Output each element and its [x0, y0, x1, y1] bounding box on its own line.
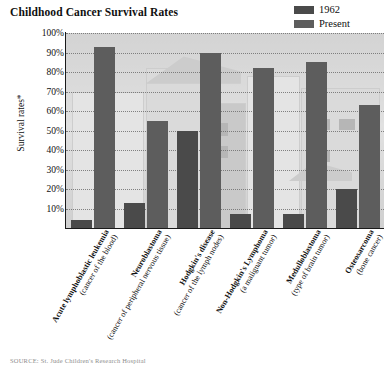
y-axis-tick-label: 100%: [42, 28, 64, 38]
bar-group: [124, 33, 168, 228]
x-axis-category-label: Osteosarcoma(bone cancer): [343, 228, 384, 280]
bar-present: [200, 53, 221, 229]
category-label-secondary: (a malignant tumor): [222, 233, 278, 320]
category-label-primary: Hodgkin's disease: [163, 228, 217, 312]
y-axis-tick-label: 60%: [47, 106, 64, 116]
bar-1962: [71, 220, 92, 228]
y-axis-tick-label: 80%: [47, 67, 64, 77]
bar-present: [94, 47, 115, 228]
y-axis-title: Survival rates*: [16, 83, 26, 163]
bar-present: [253, 68, 274, 228]
bar-present: [306, 62, 327, 228]
y-axis-tick-label: 90%: [47, 48, 64, 58]
x-axis-category-labels: Acute lymphoblastic leukemia(cancer of t…: [0, 228, 388, 348]
bar-1962: [230, 214, 251, 228]
chart-page: Childhood Cancer Survival Rates 1962 Pre…: [0, 0, 388, 366]
legend-label-1962: 1962: [319, 3, 340, 16]
bar-1962: [177, 131, 198, 229]
source-note: SOURCE: St. Jude Children's Research Hos…: [10, 357, 146, 364]
bar-1962: [336, 189, 357, 228]
plot-area: [66, 33, 384, 228]
bar-group: [71, 33, 115, 228]
legend-item-1962: 1962: [294, 3, 380, 16]
bar-present: [147, 121, 168, 228]
y-axis-tick-label: 10%: [47, 204, 64, 214]
bar-1962: [283, 214, 304, 228]
bar-present: [359, 105, 380, 228]
legend-swatch-present: [294, 20, 314, 28]
bar-series: [66, 33, 384, 228]
bar-group: [283, 33, 327, 228]
page-title: Childhood Cancer Survival Rates: [10, 6, 178, 18]
y-axis-tick-label: 70%: [47, 87, 64, 97]
y-axis-tick-label: 50%: [47, 126, 64, 136]
legend: 1962 Present: [294, 3, 380, 31]
y-axis-tick-label: 40%: [47, 145, 64, 155]
bar-1962: [124, 203, 145, 228]
legend-item-present: Present: [294, 17, 380, 30]
x-axis-category-label: Hodgkin's disease(cancer of the lymph no…: [163, 228, 225, 317]
y-axis-tick-label: 20%: [47, 184, 64, 194]
category-label-secondary: (cancer of peripheral nervous tissue): [104, 233, 172, 341]
y-axis-line: [65, 32, 66, 229]
x-axis-category-label: Medulloblastoma(type of brain tumor): [280, 228, 331, 297]
bar-group: [177, 33, 221, 228]
legend-label-present: Present: [319, 17, 350, 30]
y-axis-tick-label: 30%: [47, 165, 64, 175]
bar-group: [230, 33, 274, 228]
category-label-primary: Acute lymphoblastic leukemia: [50, 228, 111, 324]
y-axis-tick-labels: 100%90%80%70%60%50%40%30%20%10%: [30, 26, 64, 235]
x-axis-category-label: Non-Hodgkin's Lymphoma(a malignant tumor…: [214, 228, 278, 320]
bar-group: [336, 33, 380, 228]
legend-swatch-1962: [294, 6, 314, 14]
